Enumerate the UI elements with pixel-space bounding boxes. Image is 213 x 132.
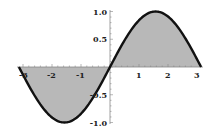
x-tick-label: 2 [165, 70, 171, 80]
x-tick-label: -1 [76, 70, 85, 80]
y-tick-label: 1.0 [93, 7, 107, 17]
sine-area-chart: -3 -2 -1 1 2 3 1.0 0.5 -0.5 -1.0 [0, 0, 213, 132]
y-tick-label: -1.0 [90, 118, 108, 128]
x-tick-label: 3 [194, 70, 200, 80]
x-tick-label: -3 [19, 70, 28, 80]
y-tick-label: 0.5 [93, 34, 107, 44]
x-tick-labels: -3 -2 -1 1 2 3 [19, 70, 200, 80]
y-tick-label: -0.5 [90, 90, 107, 100]
x-tick-label: 1 [136, 70, 142, 80]
x-tick-label: -2 [47, 70, 56, 80]
